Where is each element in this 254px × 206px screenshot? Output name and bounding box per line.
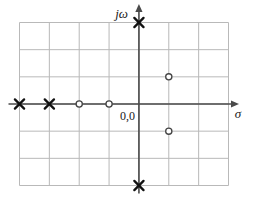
pole-zero-plot-figure: jω σ 0,0	[0, 0, 254, 206]
origin-label: 0,0	[120, 109, 135, 123]
real-axis-label: σ	[235, 106, 242, 121]
axes	[9, 4, 240, 194]
zero-marker	[166, 74, 172, 80]
plot-canvas: jω σ 0,0	[0, 0, 254, 206]
imaginary-axis-label: jω	[113, 6, 128, 21]
zero-marker	[106, 101, 112, 107]
zero-marker	[76, 101, 82, 107]
zero-marker	[166, 128, 172, 134]
imaginary-axis-arrowhead	[135, 4, 142, 12]
